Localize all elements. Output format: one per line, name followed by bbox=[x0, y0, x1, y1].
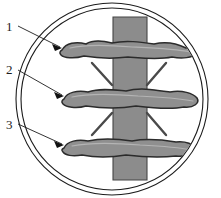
callout-1-label: 1 bbox=[6, 19, 13, 34]
callout-3-label: 3 bbox=[6, 117, 13, 132]
upper-transverse-band bbox=[60, 41, 196, 59]
callout-2-label: 2 bbox=[6, 62, 13, 77]
diagram-canvas: 1 2 3 bbox=[0, 0, 221, 198]
middle-transverse-band bbox=[62, 89, 198, 109]
lower-transverse-band bbox=[62, 139, 195, 157]
figure-root: 1 2 3 bbox=[0, 0, 221, 198]
